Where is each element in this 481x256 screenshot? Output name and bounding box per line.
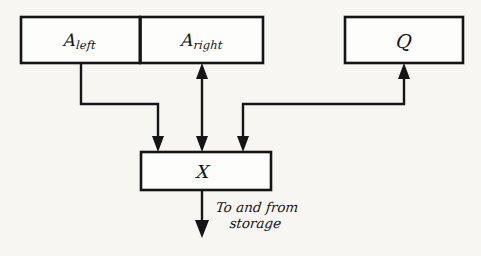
label-a-left-sub: left xyxy=(76,38,97,52)
wire-a-left-to-x xyxy=(81,63,158,142)
wire-q-to-x xyxy=(243,73,404,142)
arrowhead-x-to-q xyxy=(398,63,410,79)
label-a-left: Aleft xyxy=(63,30,97,52)
label-a-right: Aright xyxy=(180,30,223,52)
arrowhead-q-to-x xyxy=(237,136,249,152)
arrowhead-x-to-storage xyxy=(195,220,209,238)
arrowhead-a-left-to-x xyxy=(152,136,164,152)
label-x: X xyxy=(196,161,210,182)
label-a-right-sub: right xyxy=(193,38,223,52)
caption-line-2: storage xyxy=(213,216,297,232)
arrowhead-a-right-to-x xyxy=(196,136,208,152)
label-q: Q xyxy=(395,30,413,52)
caption-to-and-from-storage: To and from storage xyxy=(213,200,299,232)
diagram-canvas: Aleft Aright Q X To and from storage xyxy=(0,0,481,256)
arrowhead-x-to-a-right xyxy=(196,63,208,79)
caption-line-1: To and from xyxy=(215,200,299,216)
